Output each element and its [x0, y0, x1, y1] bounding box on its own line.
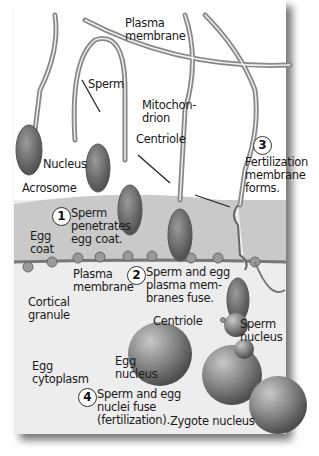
- label-egg-coat: Egg coat: [30, 230, 54, 256]
- label-mitochondrion: Mitochon- drion: [142, 99, 196, 125]
- sperm-head-4: [168, 209, 192, 261]
- label-plasma-membrane-bottom: Plasma membrane: [73, 268, 134, 294]
- label-centriole-top: Centriole: [136, 133, 185, 146]
- label-nucleus: Nucleus: [43, 158, 87, 171]
- label-egg-nucleus: Egg nucleus: [115, 355, 157, 381]
- step-4-badge: 4: [78, 388, 97, 407]
- fertilization-membrane-wave: [255, 262, 285, 292]
- step-3-badge: 3: [253, 136, 272, 155]
- label-zygote-nucleus: Zygote nucleus: [170, 415, 255, 428]
- label-acrosome: Acrosome: [22, 182, 76, 195]
- step-2-badge: 2: [127, 266, 146, 285]
- label-plasma-membrane-top: Plasma membrane: [125, 17, 186, 43]
- label-cortical-granule: Cortical granule: [28, 296, 70, 322]
- step-2-text: Sperm and egg plasma mem- branes fuse.: [146, 266, 230, 305]
- label-centriole-bottom: Centriole: [153, 315, 202, 328]
- zygote-nucleus: [249, 376, 307, 434]
- label-egg-cytoplasm: Egg cytoplasm: [32, 360, 89, 386]
- step-4-text: Sperm and egg nuclei fuse (fertilization…: [97, 388, 181, 427]
- sperm-head-1: [16, 125, 42, 175]
- step-1-badge: 1: [52, 207, 71, 226]
- label-sperm-nucleus: Sperm nucleus: [240, 318, 282, 344]
- step-1-text: Sperm penetrates egg coat.: [71, 207, 131, 246]
- label-sperm: Sperm: [88, 78, 124, 91]
- step-3-text: Fertilization membrane forms.: [245, 156, 308, 195]
- sperm-head-2: [86, 144, 110, 192]
